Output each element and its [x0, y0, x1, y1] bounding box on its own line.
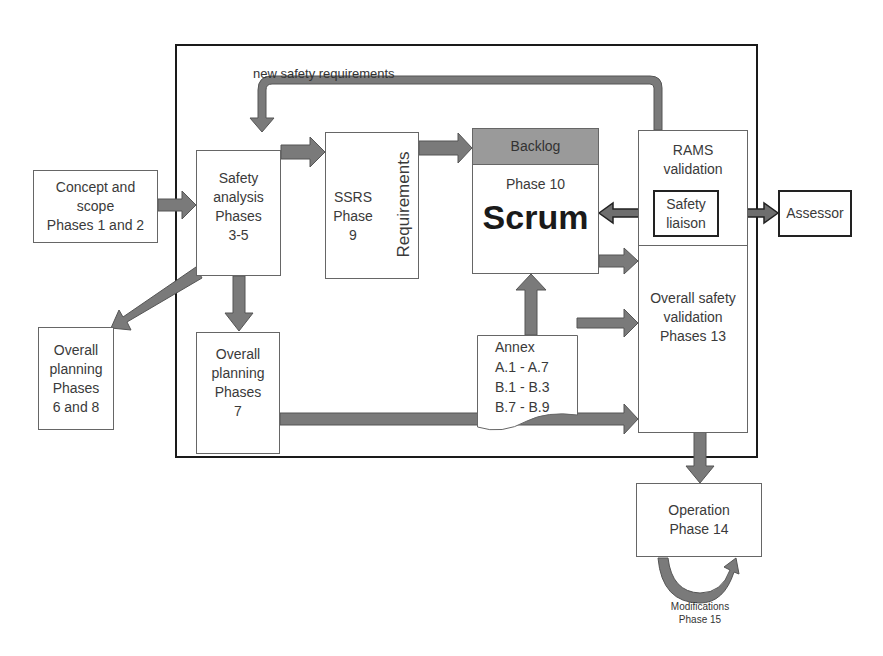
node-assessor[interactable]: Assessor [778, 190, 852, 237]
node-annex[interactable]: Annex A.1 - A.7 B.1 - B.3 B.7 - B.9 [477, 295, 578, 435]
node-line: 3-5 [228, 226, 248, 245]
node-line: Assessor [786, 204, 844, 223]
node-line: B.7 - B.9 [495, 397, 549, 417]
node-line: RAMS [639, 141, 747, 160]
node-line: Safety [219, 169, 259, 188]
arrow-concept-to-safety [158, 191, 196, 219]
arrow-ssrs-to-backlog [419, 133, 472, 163]
overall-safety-validation: Overall safety validation Phases 13 [639, 289, 747, 346]
node-line: Overall [216, 345, 260, 364]
scrum-phase-label: Phase 10 [473, 175, 598, 194]
node-line: 7 [234, 402, 242, 421]
node-line: Phases [215, 383, 262, 402]
node-line: scope [77, 197, 114, 216]
arrow-safety-to-ssrs [281, 137, 325, 167]
node-line: A.1 - A.7 [495, 357, 549, 377]
modifications-loop-arrow [658, 558, 739, 603]
arrow-safety-to-planning-6-8 [111, 267, 202, 330]
node-line: Phase 15 [650, 613, 750, 626]
backlog-header: Backlog [473, 129, 598, 165]
node-line: 6 and 8 [53, 398, 100, 417]
node-line: Phases 1 and 2 [47, 216, 144, 235]
modifications-label: Modifications Phase 15 [650, 600, 750, 626]
arrow-validation-to-operation [686, 432, 714, 483]
feedback-loop-arrow [250, 76, 662, 132]
node-line: liaison [666, 214, 706, 233]
node-operation[interactable]: Operation Phase 14 [636, 483, 762, 557]
node-line: Modifications [650, 600, 750, 613]
node-line: Safety [666, 195, 706, 214]
node-safety-liaison[interactable]: Safety liaison [653, 190, 719, 237]
node-line: Phase [326, 207, 380, 226]
node-line: validation [639, 308, 747, 327]
node-line: Phase 14 [669, 520, 728, 539]
arrow-planning7-to-validation [280, 404, 638, 434]
node-planning-7[interactable]: Overall planning Phases 7 [196, 332, 280, 454]
scrum-title: Scrum [473, 197, 598, 237]
node-line: Phases [215, 207, 262, 226]
node-line: 9 [326, 226, 380, 245]
node-line: B.1 - B.3 [495, 377, 549, 397]
node-line: Concept and [56, 178, 135, 197]
node-line: Operation [668, 501, 729, 520]
node-safety-analysis[interactable]: Safety analysis Phases 3-5 [196, 150, 281, 276]
node-line: validation [639, 160, 747, 179]
node-line: planning [212, 364, 265, 383]
arrows-layer [0, 0, 883, 656]
node-concept-scope[interactable]: Concept and scope Phases 1 and 2 [33, 170, 158, 243]
node-line: Phases [53, 379, 100, 398]
node-planning-6-8[interactable]: Overall planning Phases 6 and 8 [38, 327, 114, 430]
node-line: planning [50, 360, 103, 379]
requirements-vertical-label: Requirements [394, 150, 413, 260]
arrow-scrum-to-validation [599, 248, 638, 274]
feedback-label: new safety requirements [253, 66, 395, 81]
node-ssrs[interactable]: SSRS Phase 9 Requirements [325, 132, 419, 279]
node-line: Overall safety [639, 289, 747, 308]
node-scrum[interactable]: Backlog Phase 10 Scrum [472, 128, 599, 274]
node-line: analysis [213, 188, 264, 207]
arrow-annex-to-validation [577, 309, 638, 337]
node-line: Annex [495, 337, 549, 357]
node-rams-validation[interactable]: RAMS validation Overall safety validatio… [638, 130, 748, 433]
node-line: Phases 13 [639, 327, 747, 346]
arrow-safety-to-planning-7 [225, 276, 253, 331]
node-line: Overall [54, 341, 98, 360]
node-line: SSRS [326, 188, 380, 207]
